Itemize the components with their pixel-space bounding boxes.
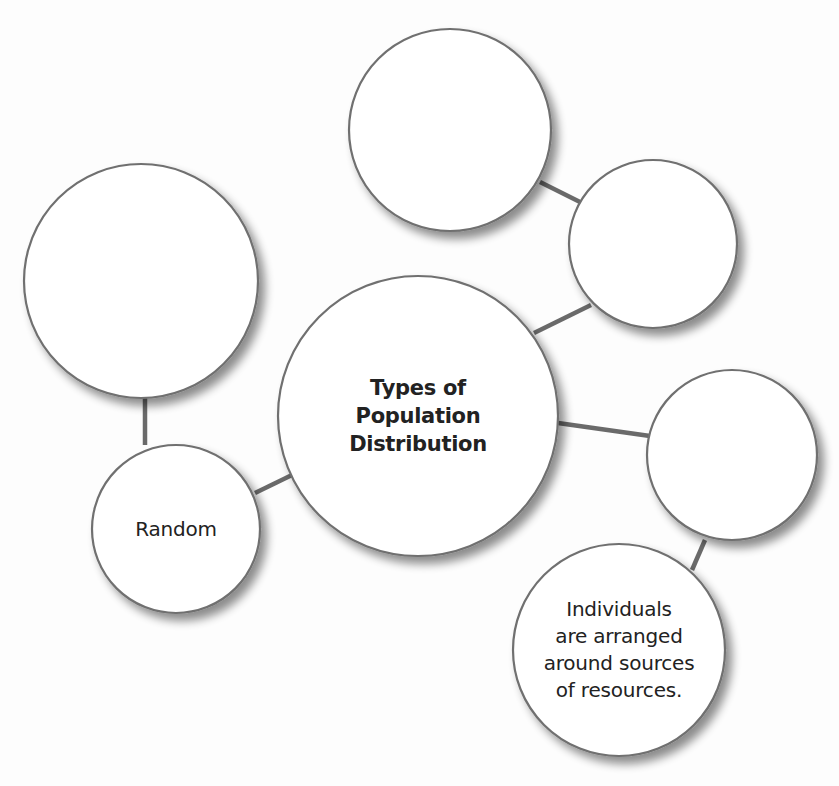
node-circle-top-left-blank	[24, 164, 258, 398]
nodes	[24, 29, 817, 756]
connector-right-blank-to-clumped-description	[692, 540, 705, 570]
concept-web-diagram	[0, 0, 839, 786]
connector-center-to-right-blank	[558, 423, 650, 436]
node-circle-top-blank	[349, 29, 551, 231]
node-circle-clumped-description	[513, 544, 725, 756]
node-circle-top-right-blank	[569, 160, 737, 328]
connector-center-to-random	[255, 475, 292, 493]
node-circle-center	[278, 276, 558, 556]
connector-top-right-blank-to-top-blank	[540, 182, 580, 202]
node-circle-right-blank	[647, 370, 817, 540]
node-circle-random	[92, 445, 260, 613]
connector-center-to-top-right-blank	[534, 305, 591, 333]
